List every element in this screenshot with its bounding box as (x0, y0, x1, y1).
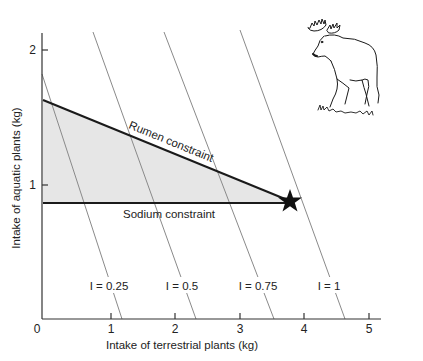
iso-label-0-5: I = 0.5 (166, 280, 198, 292)
x-tick-2: 2 (172, 322, 179, 336)
iso-line-1 (240, 30, 345, 319)
x-tick-4: 4 (301, 322, 308, 336)
x-axis-label: Intake of terrestrial plants (kg) (106, 339, 258, 351)
y-tick-2: 2 (29, 43, 36, 57)
x-tick-5: 5 (366, 322, 373, 336)
x-tick-3: 3 (237, 322, 244, 336)
iso-label-0-75: I = 0.75 (239, 280, 278, 292)
sodium-constraint-label: Sodium constraint (123, 208, 216, 220)
y-axis-label: Intake of aquatic plants (kg) (10, 107, 22, 248)
iso-label-1: I = 1 (318, 280, 341, 292)
x-tick-0: 0 (34, 322, 41, 336)
moose-illustration (308, 19, 379, 115)
x-tick-1: 1 (108, 322, 115, 336)
diet-constraint-diagram: 0 1 2 3 4 5 1 2 Intake of terrestrial pl… (0, 0, 423, 361)
y-tick-1: 1 (29, 178, 36, 192)
iso-label-0-25: I = 0.25 (90, 280, 129, 292)
